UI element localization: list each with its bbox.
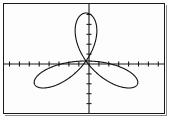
- calculator-screenshot: [0, 0, 171, 123]
- calculator-screen-frame: [3, 3, 165, 114]
- polar-rose-plot: [4, 4, 164, 113]
- polar-rose-curve: [34, 13, 138, 88]
- rose-petal-path: [34, 13, 138, 88]
